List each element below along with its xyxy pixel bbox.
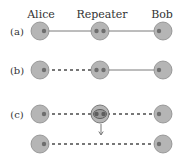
qubit-icon	[101, 68, 105, 72]
node-alice	[31, 22, 49, 40]
row-c: (c)	[10, 105, 172, 123]
qubit-icon	[42, 68, 46, 72]
qubit-icon	[101, 29, 105, 33]
label-alice: Alice	[26, 8, 55, 21]
quantum-repeater-diagram: Alice Repeater Bob (a) (b)	[0, 0, 183, 158]
qubit-icon	[94, 112, 98, 116]
qubit-icon	[157, 29, 161, 33]
qubit-icon	[157, 68, 161, 72]
node-bob	[154, 61, 172, 79]
qubit-icon	[157, 142, 161, 146]
node-bob	[154, 22, 172, 40]
node-alice	[31, 135, 49, 153]
node-bob	[154, 105, 172, 123]
row-label-b: (b)	[10, 65, 24, 76]
down-arrow-icon	[99, 124, 103, 135]
qubit-icon	[157, 112, 161, 116]
row-a: (a)	[10, 22, 172, 40]
row-label-a: (a)	[10, 26, 24, 37]
row-label-c: (c)	[10, 109, 24, 120]
node-bob	[154, 135, 172, 153]
qubit-icon	[42, 112, 46, 116]
label-repeater: Repeater	[76, 8, 128, 21]
qubit-icon	[94, 68, 98, 72]
node-repeater	[91, 22, 109, 40]
qubit-icon	[42, 142, 46, 146]
qubit-icon	[42, 29, 46, 33]
row-b: (b)	[10, 61, 172, 79]
node-repeater	[91, 61, 109, 79]
label-bob: Bob	[151, 8, 173, 21]
node-repeater-bell-measurement	[91, 105, 109, 123]
qubit-icon	[94, 29, 98, 33]
node-alice	[31, 105, 49, 123]
qubit-icon	[101, 112, 105, 116]
node-alice	[31, 61, 49, 79]
row-result	[31, 135, 172, 153]
